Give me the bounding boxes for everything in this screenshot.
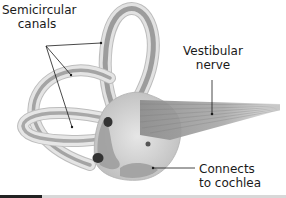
semicircular-label-line2: canals (2, 17, 72, 31)
cochlea-label-line2: to cochlea (199, 176, 279, 190)
connects-to-cochlea-label: Connects to cochlea (199, 162, 279, 190)
bottom-bar-dark (0, 195, 42, 198)
vestibular-label-line1: Vestibular (182, 44, 244, 58)
vestibular-nerve-label: Vestibular nerve (182, 44, 244, 72)
inner-ear-diagram: Semicircular canals Vestibular nerve Con… (0, 0, 286, 198)
semicircular-label-line1: Semicircular (2, 3, 72, 17)
bottom-bar-light (42, 195, 286, 198)
cochlea-label-line1: Connects (199, 162, 279, 176)
superior-canal (105, 9, 153, 105)
vestibular-label-line2: nerve (182, 58, 244, 72)
semicircular-canals-label: Semicircular canals (2, 3, 72, 31)
vestibular-nerve (140, 100, 280, 140)
